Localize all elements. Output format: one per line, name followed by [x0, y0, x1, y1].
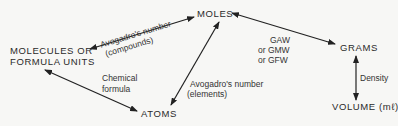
label-gaw: GAW	[270, 35, 290, 45]
node-molecules-line1: MOLECULES OR	[10, 45, 93, 56]
label-gfw: or GFW	[258, 55, 288, 65]
node-moles: MOLES	[197, 8, 233, 19]
node-grams: GRAMS	[340, 42, 378, 53]
label-gmw: or GMW	[258, 45, 290, 55]
label-avogadro-elements-line1: Avogadro's number	[190, 79, 263, 89]
label-avogadro-elements-line2: (elements)	[187, 89, 227, 99]
mole-conversion-diagram: MOLES MOLECULES OR FORMULA UNITS GRAMS A…	[0, 0, 398, 126]
label-density: Density	[360, 73, 388, 83]
label-chemical: Chemical	[102, 73, 137, 83]
node-molecules-line2: FORMULA UNITS	[10, 56, 95, 67]
label-formula: formula	[102, 84, 130, 94]
node-atoms: ATOMS	[141, 108, 177, 119]
node-volume: VOLUME (mℓ)	[332, 101, 398, 112]
